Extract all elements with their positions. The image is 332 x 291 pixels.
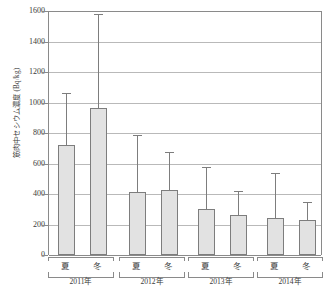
gridline-1400 <box>49 42 321 43</box>
y-tick-label-800: 800 <box>11 129 45 137</box>
y-tick-label-0: 0 <box>11 251 45 259</box>
bar-2011年-冬 <box>90 108 107 255</box>
season-label-2011年-冬: 冬 <box>85 262 109 271</box>
season-label-2013年-夏: 夏 <box>193 262 217 271</box>
y-tick-label-1600: 1600 <box>11 7 45 15</box>
y-tick-label-600: 600 <box>11 160 45 168</box>
bar-2014年-夏 <box>267 218 284 255</box>
error-bar-2011年-夏 <box>66 93 67 146</box>
error-cap-2014年-冬 <box>303 202 312 203</box>
gridline-0 <box>49 255 321 256</box>
year-label-2011年: 2011年 <box>48 278 114 286</box>
season-bracket-2012年 <box>119 257 185 261</box>
bar-2011年-夏 <box>58 145 75 255</box>
season-label-2014年-冬: 冬 <box>294 262 318 271</box>
error-cap-2013年-夏 <box>202 167 211 168</box>
season-bracket-2014年 <box>257 257 323 261</box>
season-bracket-2013年 <box>188 257 254 261</box>
gridline-1600 <box>49 11 321 12</box>
bar-2012年-冬 <box>161 190 178 255</box>
y-tick-label-400: 400 <box>11 190 45 198</box>
y-tick-label-1400: 1400 <box>11 38 45 46</box>
error-bar-2012年-冬 <box>169 152 170 190</box>
error-cap-2011年-夏 <box>62 93 71 94</box>
bar-chart: 筋肉中セシウム濃度 (Bq/kg) 0200400600800100012001… <box>0 0 332 291</box>
year-label-2012年: 2012年 <box>119 278 185 286</box>
error-cap-2011年-冬 <box>94 14 103 15</box>
error-cap-2013年-冬 <box>234 191 243 192</box>
gridline-1000 <box>49 103 321 104</box>
season-label-2012年-夏: 夏 <box>124 262 148 271</box>
season-label-2013年-冬: 冬 <box>225 262 249 271</box>
error-bar-2012年-夏 <box>137 135 138 191</box>
season-label-2012年-冬: 冬 <box>156 262 180 271</box>
error-cap-2014年-夏 <box>271 173 280 174</box>
y-tick-label-200: 200 <box>11 221 45 229</box>
bar-2014年-冬 <box>299 220 316 255</box>
gridline-1200 <box>49 72 321 73</box>
year-label-2013年: 2013年 <box>188 278 254 286</box>
plot-area <box>48 11 322 255</box>
bar-2012年-夏 <box>129 192 146 255</box>
season-label-2014年-夏: 夏 <box>262 262 286 271</box>
y-tick-label-1000: 1000 <box>11 99 45 107</box>
error-bar-2011年-冬 <box>98 14 99 108</box>
error-bar-2013年-冬 <box>238 191 239 215</box>
error-bar-2013年-夏 <box>206 167 207 209</box>
error-bar-2014年-冬 <box>307 202 308 221</box>
error-cap-2012年-冬 <box>165 152 174 153</box>
season-bracket-2011年 <box>48 257 114 261</box>
y-tick-mark-0 <box>42 255 48 256</box>
bar-2013年-夏 <box>198 209 215 255</box>
y-tick-label-1200: 1200 <box>11 68 45 76</box>
season-label-2011年-夏: 夏 <box>53 262 77 271</box>
year-label-2014年: 2014年 <box>257 278 323 286</box>
bar-2013年-冬 <box>230 215 247 255</box>
error-cap-2012年-夏 <box>133 135 142 136</box>
error-bar-2014年-夏 <box>275 173 276 217</box>
